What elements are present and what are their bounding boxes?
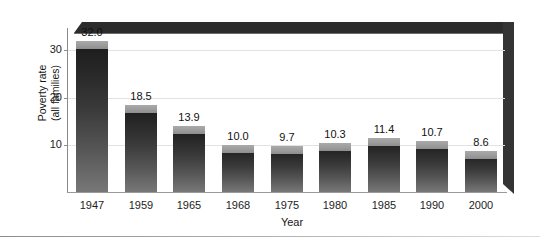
frame-top-highlight: [74, 33, 504, 34]
x-tick-label-1990: 1990: [407, 199, 457, 211]
bar-1975: [271, 146, 303, 192]
bar-1947: [76, 41, 108, 192]
bar-top-face-1968: [222, 145, 254, 153]
bar-top-face-1965: [173, 126, 205, 134]
x-tick-label-1959: 1959: [116, 199, 166, 211]
bar-value-label-1968: 10.0: [213, 131, 263, 142]
x-axis-title: Year: [22, 216, 540, 228]
y-tick-label-30: 30: [38, 44, 62, 55]
x-tick-label-1975: 1975: [262, 199, 312, 211]
poverty-rate-bar-chart: Poverty rate (all families) 102030 32.01…: [0, 0, 540, 247]
bar-value-label-1965: 13.9: [164, 112, 214, 123]
y-tick-mark-30: [64, 50, 68, 51]
footer-divider: [0, 236, 540, 237]
x-axis-line: [67, 192, 507, 193]
frame-top-face: [74, 22, 512, 33]
bar-value-label-1990: 10.7: [407, 127, 457, 138]
x-tick-label-2000: 2000: [456, 199, 506, 211]
bar-top-face-1975: [271, 146, 303, 154]
bar-1959: [125, 105, 157, 192]
bar-top-face-1985: [368, 138, 400, 146]
x-tick-label-1965: 1965: [164, 199, 214, 211]
bar-top-face-1959: [125, 105, 157, 113]
frame-right-face: [503, 22, 514, 194]
bar-1968: [222, 145, 254, 192]
bar-1965: [173, 126, 205, 192]
bar-value-label-1980: 10.3: [310, 129, 360, 140]
bar-value-label-2000: 8.6: [456, 137, 506, 148]
y-tick-label-10: 10: [38, 139, 62, 150]
x-tick-label-1985: 1985: [359, 199, 409, 211]
bar-top-face-1990: [416, 141, 448, 149]
bar-1990: [416, 141, 448, 192]
bar-2000: [465, 151, 497, 192]
x-tick-label-1968: 1968: [213, 199, 263, 211]
bar-value-label-1975: 9.7: [262, 132, 312, 143]
y-tick-mark-20: [64, 98, 68, 99]
y-axis-line: [67, 28, 68, 193]
bar-value-label-1985: 11.4: [359, 124, 409, 135]
bar-value-label-1959: 18.5: [116, 91, 166, 102]
gridline-30: [68, 50, 505, 51]
x-tick-label-1947: 1947: [67, 199, 117, 211]
bar-1985: [368, 138, 400, 192]
bar-1980: [319, 143, 351, 192]
x-tick-label-1980: 1980: [310, 199, 360, 211]
y-tick-label-20: 20: [38, 92, 62, 103]
bar-value-label-1947: 32.0: [67, 27, 117, 38]
bar-top-face-1947: [76, 41, 108, 49]
y-tick-mark-10: [64, 145, 68, 146]
bar-top-face-1980: [319, 143, 351, 151]
bar-top-face-2000: [465, 151, 497, 159]
